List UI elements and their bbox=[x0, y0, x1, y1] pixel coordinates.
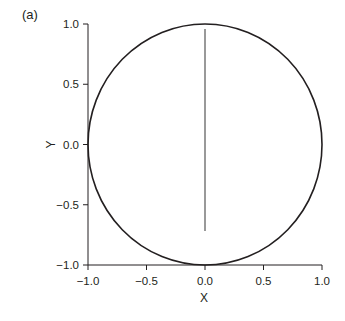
x-axis-title: X bbox=[200, 291, 208, 305]
y-tick-label: 1.0 bbox=[63, 18, 79, 30]
y-tick-label: 0.5 bbox=[63, 78, 79, 90]
y-axis-title: Y bbox=[44, 140, 58, 148]
x-tick-label: −0.5 bbox=[135, 275, 158, 287]
y-tick-label: −1.0 bbox=[56, 259, 79, 271]
x-tick-label: 0.0 bbox=[197, 275, 213, 287]
chart-plot: 1.0 0.5 0.0 −0.5 −1.0 −1.0 −0.5 0.0 0.5 … bbox=[0, 0, 345, 321]
x-tick-label: 1.0 bbox=[314, 275, 330, 287]
y-tick-label: 0.0 bbox=[63, 139, 79, 151]
y-tick-label: −0.5 bbox=[56, 199, 79, 211]
x-tick-label: −1.0 bbox=[77, 275, 100, 287]
x-tick-label: 0.5 bbox=[256, 275, 272, 287]
